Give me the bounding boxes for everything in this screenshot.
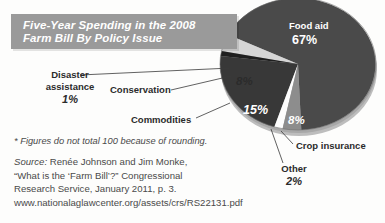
slice-value-conservation: 8%: [236, 75, 253, 87]
source-label: Source:: [14, 156, 47, 167]
chart-title-line-1: Five-Year Spending in the 2008: [23, 19, 196, 31]
callout-commodities: Commodities: [131, 114, 191, 126]
source-url: www.nationalaglawcenter.org/assets/crs/R…: [14, 196, 243, 210]
callout-disaster-pct: 1%: [33, 93, 107, 105]
callout-disaster-line1: Disaster: [51, 69, 89, 80]
callout-disaster-line2: assistance: [46, 81, 95, 92]
source-citation: Source: Renée Johnson and Jim Monke, “Wh…: [14, 155, 243, 209]
callout-crop-insurance: Crop insurance: [296, 140, 366, 152]
callout-conservation: Conservation: [110, 84, 171, 96]
slice-label-food-aid: Food aid: [289, 20, 329, 31]
source-line-2: “What is the ‘Farm Bill’?” Congressional: [14, 169, 243, 183]
callout-other: Other 2%: [272, 163, 316, 187]
chart-figure: Five-Year Spending in the 2008 Farm Bill…: [0, 0, 385, 223]
chart-footnote: * Figures do not total 100 because of ro…: [14, 136, 207, 146]
chart-title-banner: Five-Year Spending in the 2008 Farm Bill…: [11, 14, 237, 49]
slice-value-food-aid: 67%: [292, 33, 317, 47]
callout-disaster-assistance: Disaster assistance 1%: [33, 69, 107, 105]
slice-value-crop-insurance: 8%: [288, 114, 305, 126]
source-authors: Renée Johnson and Jim Monke,: [47, 156, 187, 167]
callout-other-label: Other: [281, 163, 306, 174]
source-line-1: Source: Renée Johnson and Jim Monke,: [14, 155, 243, 169]
callout-other-pct: 2%: [272, 175, 316, 187]
slice-value-commodities: 15%: [243, 103, 268, 117]
source-line-3: Research Service, January 2011, p. 3.: [14, 182, 243, 196]
chart-title-line-2: Farm Bill By Policy Issue: [23, 32, 162, 44]
